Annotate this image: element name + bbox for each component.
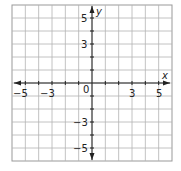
x-tick-label: −5 <box>13 88 28 99</box>
origin-label: 0 <box>83 84 89 95</box>
y-tick-label: 5 <box>81 13 87 24</box>
x-tick-label: 5 <box>156 88 162 99</box>
y-axis-label: y <box>95 6 103 17</box>
y-tick-label: −3 <box>73 117 88 128</box>
x-tick-label: 3 <box>129 88 135 99</box>
y-tick-label: −5 <box>73 143 88 154</box>
x-tick-label: −3 <box>40 88 55 99</box>
y-tick-label: 3 <box>81 39 87 50</box>
coordinate-plane: x y 0 −5 −3 3 5 5 3 −3 −5 <box>0 0 181 171</box>
x-axis-label: x <box>161 70 168 81</box>
